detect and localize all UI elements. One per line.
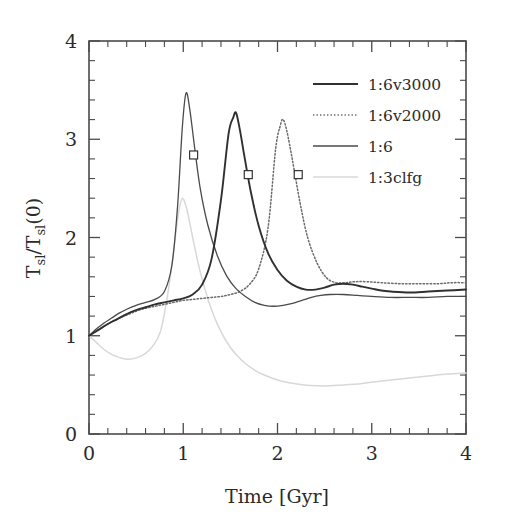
curve-1-6 <box>89 93 466 336</box>
x-tick-label: 4 <box>460 442 472 464</box>
y-tick-label: 0 <box>65 423 77 445</box>
legend-label-0: 1:6v3000 <box>368 76 441 94</box>
axis-ticks <box>89 41 466 434</box>
marker-square <box>294 171 302 179</box>
x-tick-labels: 01234 <box>83 442 472 464</box>
marker-square <box>244 171 252 179</box>
legend-label-2: 1:6 <box>368 138 393 156</box>
plot-frame <box>89 41 466 434</box>
y-tick-label: 2 <box>65 227 77 249</box>
marker-square <box>190 151 198 159</box>
legend-label-1: 1:6v2000 <box>368 107 441 125</box>
x-tick-label: 3 <box>366 442 378 464</box>
y-tick-label: 3 <box>65 128 77 150</box>
x-tick-label: 0 <box>83 442 95 464</box>
figure-root: 01234 01234 1:6v30001:6v20001:61:3clfg T… <box>0 0 512 525</box>
data-curves <box>89 93 466 386</box>
x-axis-title: Time [Gyr] <box>225 485 329 507</box>
curve-1-6v2000 <box>89 119 466 335</box>
y-num-sub: sl <box>33 255 48 266</box>
legend: 1:6v30001:6v20001:61:3clfg <box>313 76 441 187</box>
x-tick-label: 2 <box>271 442 283 464</box>
x-tick-label: 1 <box>177 442 189 464</box>
y-tick-label: 4 <box>65 30 77 52</box>
y-tick-labels: 01234 <box>65 30 77 445</box>
y-tick-label: 1 <box>65 325 77 347</box>
y-num: T <box>22 265 44 278</box>
y-den-sub: sl <box>33 225 48 236</box>
y-axis-title-text: Tsl/Tsl(0) <box>22 198 48 278</box>
y-axis-title: Tsl/Tsl(0) <box>22 198 48 278</box>
chart-canvas: 01234 01234 1:6v30001:6v20001:61:3clfg T… <box>0 0 512 525</box>
legend-label-3: 1:3clfg <box>368 169 422 187</box>
